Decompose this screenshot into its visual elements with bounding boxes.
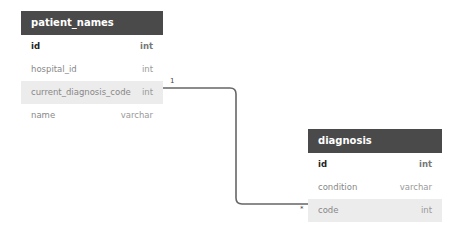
table-header[interactable]: diagnosis — [308, 129, 442, 153]
column-row[interactable]: name varchar — [21, 104, 163, 127]
column-name: condition — [318, 176, 357, 199]
column-row[interactable]: id int — [21, 35, 163, 58]
table-patient-names[interactable]: patient_names id int hospital_id int cur… — [21, 11, 163, 127]
column-type: int — [419, 153, 432, 176]
column-name: current_diagnosis_code — [31, 81, 131, 104]
column-name: code — [318, 199, 339, 222]
cardinality-one: 1 — [170, 77, 174, 85]
column-type: int — [140, 35, 153, 58]
column-name: id — [318, 153, 327, 176]
table-diagnosis[interactable]: diagnosis id int condition varchar code … — [308, 129, 442, 222]
column-type: int — [142, 58, 153, 81]
column-type: int — [142, 81, 153, 104]
column-row[interactable]: id int — [308, 153, 442, 176]
column-name: name — [31, 104, 55, 127]
cardinality-many: * — [300, 205, 304, 213]
column-row[interactable]: current_diagnosis_code int — [21, 81, 163, 104]
column-type: varchar — [121, 104, 153, 127]
column-name: id — [31, 35, 40, 58]
column-row[interactable]: code int — [308, 199, 442, 222]
column-row[interactable]: hospital_id int — [21, 58, 163, 81]
column-name: hospital_id — [31, 58, 77, 81]
column-type: varchar — [400, 176, 432, 199]
table-header[interactable]: patient_names — [21, 11, 163, 35]
column-type: int — [421, 199, 432, 222]
column-row[interactable]: condition varchar — [308, 176, 442, 199]
